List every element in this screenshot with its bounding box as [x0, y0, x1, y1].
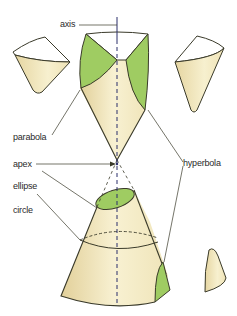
left-cut-piece	[13, 37, 70, 93]
ellipse-label: ellipse	[13, 181, 37, 191]
parabola-label: parabola	[13, 132, 46, 142]
upper-nappe	[80, 32, 149, 160]
apex-label: apex	[13, 159, 32, 169]
lower-nappe	[61, 160, 170, 306]
apex-arrow-icon	[110, 162, 116, 167]
apex-point	[116, 163, 118, 165]
right-cut-piece	[175, 36, 224, 112]
hyperbola-label: hyperbola	[183, 158, 221, 168]
circle-label: circle	[13, 205, 33, 215]
axis-label: axis	[60, 19, 75, 29]
lower-hyperbola-piece	[205, 249, 226, 292]
